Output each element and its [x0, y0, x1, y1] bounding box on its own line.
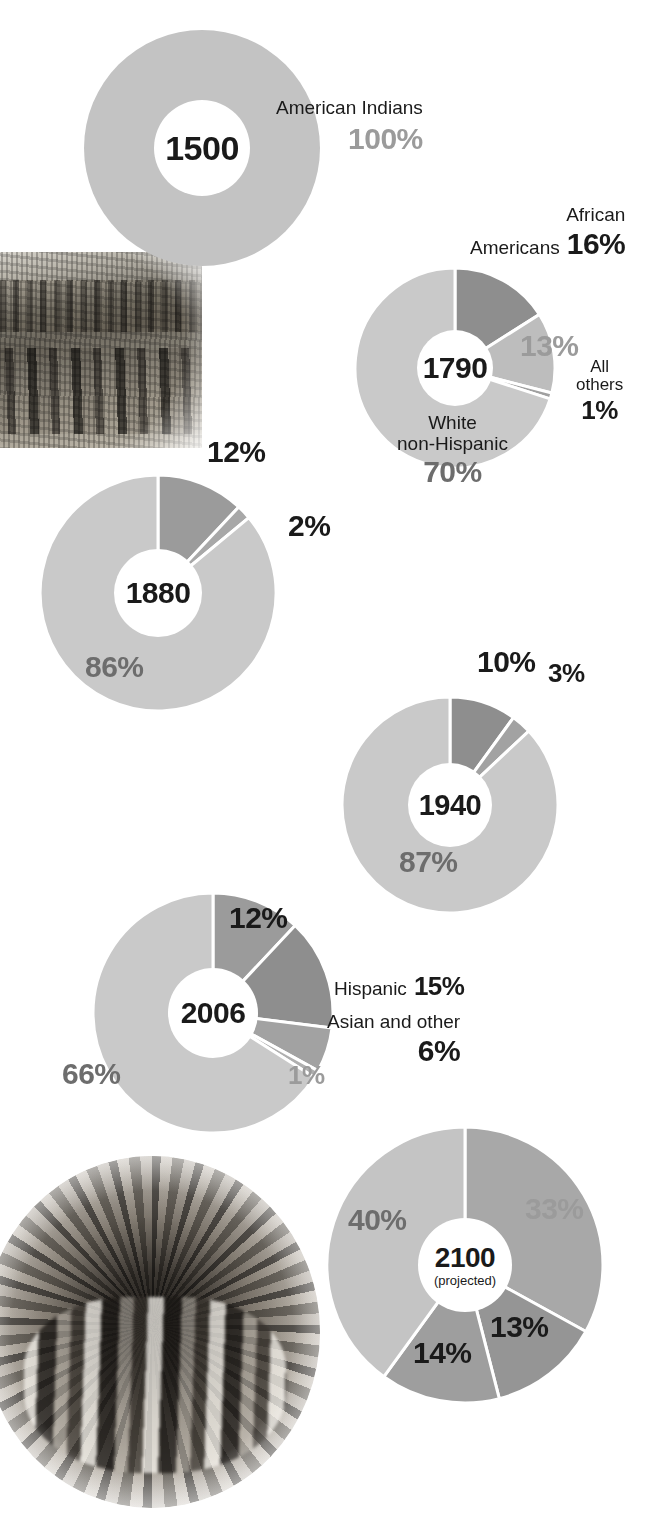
- label-pct: 86%: [85, 651, 144, 683]
- label-pct: 100%: [276, 123, 423, 155]
- modern-crowd-photo: [0, 1156, 320, 1508]
- label-pct: 12%: [207, 436, 266, 468]
- label-pct: 1%: [576, 396, 623, 424]
- label-hispanic-2100: 33%: [525, 1193, 584, 1225]
- label-name: Hispanic: [334, 979, 407, 1000]
- label-white-non-hispanic-1940: 87%: [399, 846, 458, 878]
- label-pct: 33%: [525, 1193, 584, 1225]
- hub-2100: 2100 (projected): [418, 1218, 512, 1312]
- label-american-indians-1500: American Indians 100%: [276, 98, 423, 155]
- hub-year-label: 2100: [435, 1244, 495, 1272]
- pie-chart-1880: 1880: [40, 475, 276, 711]
- label-all-others-2006: 1%: [288, 1061, 325, 1089]
- label-all-others-1790: All others 1%: [576, 358, 623, 424]
- hub-year-label: 1790: [423, 353, 488, 383]
- label-pct: 12%: [229, 902, 288, 934]
- label-african-americans-2100: 13%: [490, 1311, 549, 1343]
- label-asian-and-other-2006: Asian and other 6%: [327, 1012, 460, 1067]
- label-name-line1: White: [397, 413, 508, 434]
- label-african-americans-2006: 12%: [229, 902, 288, 934]
- label-name-line2: others: [576, 376, 623, 394]
- hub-1940: 1940: [408, 763, 492, 847]
- label-asian-and-other-2100: 14%: [413, 1337, 472, 1369]
- label-pct: 13%: [490, 1311, 549, 1343]
- label-all-others-1940: 3%: [548, 659, 585, 687]
- label-all-others-1880: 2%: [288, 510, 330, 542]
- hub-1500: 1500: [154, 100, 250, 196]
- label-african-americans-1880: 12%: [207, 436, 266, 468]
- label-pct: 1%: [288, 1061, 325, 1089]
- pie-chart-1940: 1940: [342, 697, 558, 913]
- label-african-americans-1940: 10%: [477, 646, 536, 678]
- hub-1880: 1880: [114, 549, 202, 637]
- label-white-non-hispanic-1880: 86%: [85, 651, 144, 683]
- label-name-line1: African: [470, 205, 625, 226]
- label-pct: 40%: [348, 1204, 407, 1236]
- label-pct: 13%: [520, 330, 579, 362]
- label-name-line2: Americans: [470, 238, 560, 259]
- label-name: Asian and other: [327, 1012, 460, 1033]
- photo-fade: [0, 252, 202, 448]
- label-pct: 15%: [414, 972, 465, 1000]
- label-name-line2: non-Hispanic: [397, 434, 508, 455]
- label-pct: 10%: [477, 646, 536, 678]
- label-pct: 87%: [399, 846, 458, 878]
- label-name: American Indians: [276, 98, 423, 119]
- hub-sub-label: (projected): [434, 1274, 496, 1287]
- label-pct: 66%: [62, 1058, 121, 1090]
- label-hispanic-2006: Hispanic 15%: [334, 972, 464, 1000]
- hub-year-label: 2006: [181, 998, 246, 1028]
- label-white-non-hispanic-1790: White non-Hispanic 70%: [397, 413, 508, 488]
- label-pct: 14%: [413, 1337, 472, 1369]
- photo-vignette: [0, 1156, 320, 1508]
- label-pct: 2%: [288, 510, 330, 542]
- infographic-page: 1500 American Indians 100% 1790 African: [0, 0, 647, 1519]
- hub-2006: 2006: [168, 968, 258, 1058]
- label-white-non-hispanic-2100: 40%: [348, 1204, 407, 1236]
- label-name-line2-row: Americans 16%: [470, 228, 625, 260]
- label-pct: 70%: [397, 456, 508, 488]
- label-pct: 3%: [548, 659, 585, 687]
- hub-year-label: 1940: [419, 791, 482, 820]
- hub-year-label: 1880: [126, 578, 191, 608]
- label-name-line1: All: [576, 358, 623, 376]
- american-indian-encampment-photo: [0, 252, 202, 448]
- pie-chart-2006: 2006: [93, 893, 333, 1133]
- label-african-americans-1790: African Americans 16%: [470, 205, 625, 260]
- label-pct: 6%: [327, 1035, 460, 1067]
- label-american-indians-1790: 13%: [520, 330, 579, 362]
- hub-1790: 1790: [417, 330, 493, 406]
- label-white-non-hispanic-2006: 66%: [62, 1058, 121, 1090]
- label-pct: 16%: [567, 228, 626, 260]
- hub-year-label: 1500: [165, 131, 239, 165]
